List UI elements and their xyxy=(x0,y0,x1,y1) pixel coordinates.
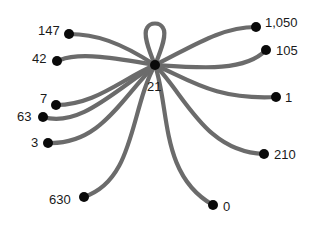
label-147: 147 xyxy=(38,23,60,38)
label-3: 3 xyxy=(31,135,38,150)
node-0 xyxy=(208,200,218,210)
node-center xyxy=(150,60,160,70)
label-105: 105 xyxy=(276,43,298,58)
node-3 xyxy=(43,138,53,148)
graph-diagram: 21 147 42 7 63 3 630 0 210 1 105 1,050 xyxy=(0,0,315,225)
label-center: 21 xyxy=(147,79,161,94)
label-630: 630 xyxy=(49,192,71,207)
label-1: 1 xyxy=(285,90,292,105)
node-1050 xyxy=(251,22,261,32)
node-63 xyxy=(38,112,48,122)
label-0: 0 xyxy=(223,199,230,214)
node-42 xyxy=(52,56,62,66)
node-630 xyxy=(79,192,89,202)
edge-147 xyxy=(69,34,155,65)
label-42: 42 xyxy=(32,51,46,66)
label-7: 7 xyxy=(40,91,47,106)
label-210: 210 xyxy=(274,147,296,162)
node-147 xyxy=(64,29,74,39)
node-105 xyxy=(261,45,271,55)
label-1050: 1,050 xyxy=(265,15,298,30)
label-63: 63 xyxy=(17,109,31,124)
node-210 xyxy=(259,149,269,159)
node-1 xyxy=(271,92,281,102)
edge-1050 xyxy=(155,27,256,65)
edge-1 xyxy=(155,65,276,97)
node-7 xyxy=(51,100,61,110)
